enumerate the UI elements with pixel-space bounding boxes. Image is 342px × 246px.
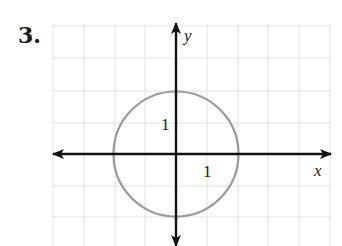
x-tick-label: 1 xyxy=(203,162,212,181)
y-axis-label: y xyxy=(182,26,192,45)
coordinate-graph: y x 1 1 xyxy=(0,0,342,246)
x-axis-label: x xyxy=(313,161,322,180)
grid xyxy=(53,24,330,246)
y-tick-label: 1 xyxy=(161,115,170,134)
